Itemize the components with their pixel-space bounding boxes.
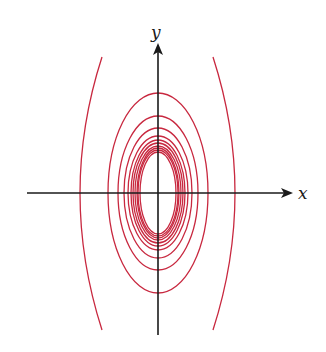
phase-portrait-diagram: x y xyxy=(0,0,326,352)
y-axis-label: y xyxy=(150,22,161,42)
x-axis-label: x xyxy=(298,183,308,203)
axes xyxy=(27,43,293,335)
